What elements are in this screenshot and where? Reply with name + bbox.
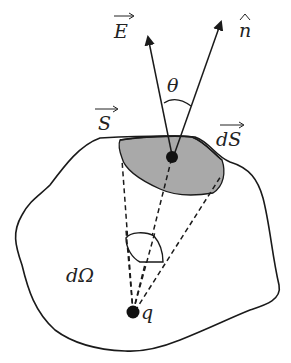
svg-text:E: E [113,20,128,42]
surface-point [166,151,178,163]
normal-vector [174,22,221,155]
label-surface: S [95,106,118,134]
label-area-element: dS [216,122,244,150]
angle-theta-arc [164,100,191,106]
label-electric-field: E [113,13,134,42]
charge-point [127,306,140,319]
gauss-law-diagram: E n θ S dS dΩ q [0,0,291,363]
svg-text:S: S [98,112,111,134]
svg-text:dS: dS [216,128,241,150]
label-theta: θ [167,74,179,96]
solid-angle-cap [126,233,163,262]
label-normal: n [239,14,251,41]
label-solid-angle: dΩ [66,264,94,286]
svg-text:n: n [239,19,251,41]
label-charge: q [141,301,153,323]
